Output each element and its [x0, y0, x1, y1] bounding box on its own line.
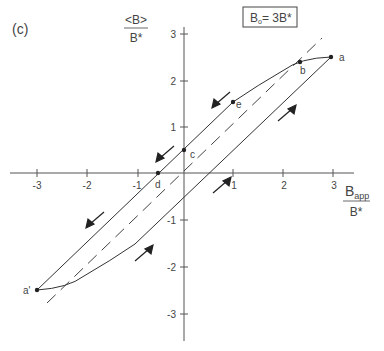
point-d [156, 171, 160, 175]
arrow-up-right-icon [135, 245, 153, 261]
label-b: b [300, 65, 306, 76]
label-d: d [155, 179, 161, 190]
x-tick-label: -3 [33, 180, 42, 191]
svg-text:B*: B* [350, 205, 363, 219]
y-tick-label: 3 [170, 29, 176, 40]
y-tick-label: -3 [167, 309, 176, 320]
svg-text:Bapp: Bapp [345, 183, 369, 201]
svg-text:B*: B* [130, 31, 143, 45]
panel-label: (c) [12, 21, 28, 37]
point-a-prime [35, 288, 39, 292]
x-axis-label: Bapp B* [343, 183, 370, 219]
arrow-up-right-icon [278, 105, 296, 121]
y-axis-label: <B> B* [124, 13, 148, 45]
point-e [231, 100, 235, 104]
y-tick-label: 1 [170, 122, 176, 133]
parameter-text: Bo= 3B* [250, 11, 292, 25]
hysteresis-chart: -3 -2 -1 1 2 3 3 2 1 -1 -2 -3 a b e c d [0, 0, 384, 351]
y-tick-label: -2 [167, 262, 176, 273]
x-tick-label: 1 [231, 180, 237, 191]
label-a-prime: a' [23, 285, 31, 296]
arrow-down-left-icon [212, 92, 230, 108]
point-c [182, 148, 186, 152]
x-tick-label: -2 [83, 180, 92, 191]
label-c: c [190, 149, 195, 160]
arrow-down-left-icon [156, 146, 174, 162]
x-tick-label: -1 [133, 180, 142, 191]
arrow-down-left-icon [86, 212, 104, 228]
svg-text:<B>: <B> [125, 13, 147, 27]
label-a: a [339, 52, 345, 63]
point-b [298, 60, 302, 64]
x-tick-label: 3 [331, 180, 337, 191]
y-tick-label: 2 [170, 76, 176, 87]
label-e: e [236, 99, 242, 110]
arrow-up-right-icon [213, 177, 231, 193]
point-a [329, 55, 333, 59]
x-tick-label: 2 [281, 180, 287, 191]
y-tick-label: -1 [167, 215, 176, 226]
